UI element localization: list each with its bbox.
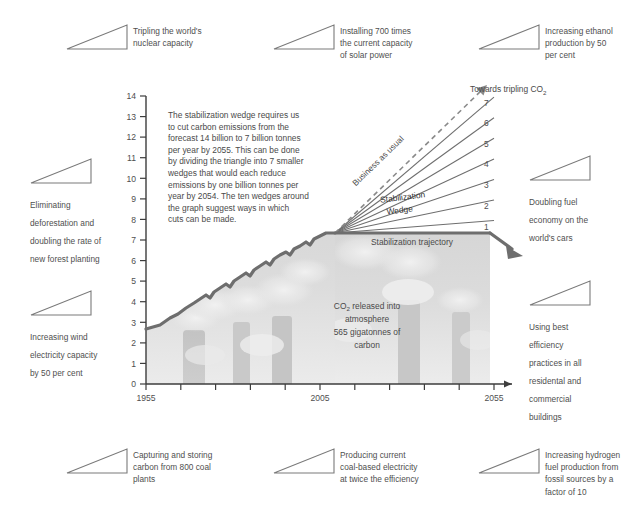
wedge-number-labels: 1 2 3 4 5 6 7 (484, 98, 489, 232)
wedge-triangle-icon (478, 24, 540, 54)
wedge-lines (335, 97, 494, 233)
stabilization-trajectory-arrow (506, 246, 523, 259)
x-axis: 1955 2005 2055 (136, 381, 512, 403)
callout-label: Using best efficiency practices in all r… (529, 321, 582, 422)
wedge-triangle-icon (66, 448, 128, 478)
callout-label: Increasing ethanol production by 50 per … (545, 24, 613, 62)
wedge-triangle-icon (478, 448, 540, 478)
wedge-triangle-icon (30, 158, 138, 188)
stabilization-trajectory-label: Stabilization trajectory (371, 237, 454, 247)
y-tick-14: 14 (126, 91, 136, 101)
x-tick-2005: 2005 (310, 393, 329, 403)
co2-released-l1b: released into (350, 301, 401, 311)
wedge-number-6: 6 (484, 118, 489, 128)
callout-label: Increasing wind electricity capacity by … (30, 331, 97, 378)
wedge-triangle-icon (273, 24, 335, 54)
callout-ethanol: Increasing ethanol production by 50 per … (478, 24, 625, 62)
wedge-triangle-icon (30, 290, 138, 320)
callout-label: Producing current coal-based electricity… (340, 448, 419, 486)
callout-wind: Increasing wind electricity capacity by … (30, 290, 138, 380)
callout-coal-efficiency: Producing current coal-based electricity… (273, 448, 443, 486)
stabilization-area-photo (328, 233, 496, 390)
chart-description: The stabilization wedge requires us to c… (168, 110, 340, 226)
x-tick-1955: 1955 (136, 393, 155, 403)
stabilization-wedge-label-line2: Wedge (386, 203, 414, 216)
historical-area-photo (146, 200, 346, 390)
callout-carbon-capture: Capturing and storing carbon from 800 co… (66, 448, 236, 486)
svg-text:CO2 released into: CO2 released into (334, 301, 401, 312)
x-tick-2055: 2055 (484, 393, 503, 403)
callout-solar: Installing 700 times the current capacit… (273, 24, 433, 62)
y-tick-5: 5 (131, 276, 136, 286)
callout-efficiency-buildings: Using best efficiency practices in all r… (529, 280, 621, 424)
y-tick-12: 12 (126, 132, 136, 142)
wedge-number-7: 7 (484, 98, 489, 108)
towards-tripling-label: Towards tripling CO2 (470, 84, 547, 96)
wedge-line-3 (335, 179, 494, 233)
callout-label: Capturing and storing carbon from 800 co… (133, 448, 212, 486)
y-tick-0: 0 (131, 379, 136, 389)
wedge-triangle-icon (66, 24, 128, 54)
callout-label: Installing 700 times the current capacit… (340, 24, 412, 62)
co2-released-l3: 565 gigatonnes of (334, 327, 401, 337)
x-axis-arrow (504, 381, 512, 388)
wedge-number-1: 1 (484, 222, 489, 232)
wedge-line-2 (335, 200, 494, 233)
callout-label: Tripling the world's nuclear capacity (133, 24, 202, 49)
wedge-number-3: 3 (484, 180, 489, 190)
co2-released-l4: carbon (354, 340, 380, 350)
wedge-number-5: 5 (484, 139, 489, 149)
callout-label: Increasing hydrogen fuel production from… (545, 448, 620, 498)
x-axis-ticks (146, 384, 494, 390)
co2-released-l1a: CO (334, 301, 347, 311)
wedge-triangle-icon (529, 280, 621, 310)
callout-hydrogen: Increasing hydrogen fuel production from… (478, 448, 625, 498)
wedge-number-2: 2 (484, 201, 489, 211)
callout-deforestation: Eliminating deforestation and doubling t… (30, 158, 138, 266)
callout-nuclear: Tripling the world's nuclear capacity (66, 24, 226, 54)
stabilization-wedge-label-line1: Stabilization (380, 189, 426, 204)
wedge-line-7 (335, 97, 494, 233)
co2-released-l2: atmosphere (345, 314, 390, 324)
callout-label: Doubling fuel economy on the world's car… (529, 196, 588, 243)
wedge-number-4: 4 (484, 159, 489, 169)
wedge-triangle-icon (273, 448, 335, 478)
wedge-triangle-icon (529, 155, 621, 185)
y-tick-13: 13 (126, 112, 136, 122)
callout-label: Eliminating deforestation and doubling t… (30, 199, 101, 264)
y-axis-ticks (140, 96, 146, 384)
callout-fuel-economy: Doubling fuel economy on the world's car… (529, 155, 621, 245)
